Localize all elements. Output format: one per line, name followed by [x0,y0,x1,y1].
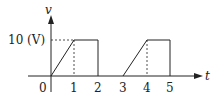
x-tick-4: 4 [143,81,151,95]
x-axis-arrow-icon [194,73,203,79]
waveform-pulse-1 [51,40,98,76]
x-axis-label: t [205,69,210,83]
y-level-label: 10 (V) [8,33,45,47]
x-tick-5: 5 [166,81,174,95]
y-axis-label: v [45,3,52,17]
x-tick-2: 2 [94,81,102,95]
x-tick-1: 1 [70,81,78,95]
origin-label: 0 [39,81,47,95]
x-tick-3: 3 [119,81,127,95]
waveform-diagram: v t 10 (V) 0 1 2 3 4 5 [0,0,215,97]
waveform-pulse-2 [123,40,170,76]
